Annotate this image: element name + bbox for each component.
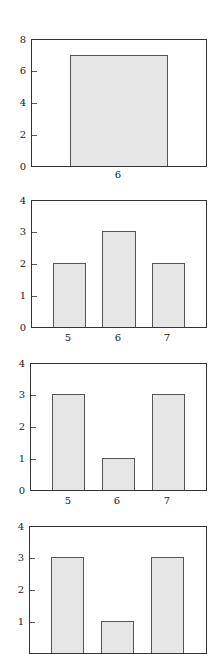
y-tick (30, 622, 35, 623)
y-tick-label: 2 (12, 585, 24, 595)
bar-7 (151, 557, 184, 653)
y-tick-label: 3 (12, 553, 24, 563)
bar-6 (101, 621, 134, 653)
y-tick-label: 1 (12, 617, 24, 627)
bar-5 (51, 557, 84, 653)
y-tick (30, 558, 35, 559)
plot-area (29, 526, 207, 654)
y-tick (30, 590, 35, 591)
y-tick-label: 4 (12, 522, 24, 532)
